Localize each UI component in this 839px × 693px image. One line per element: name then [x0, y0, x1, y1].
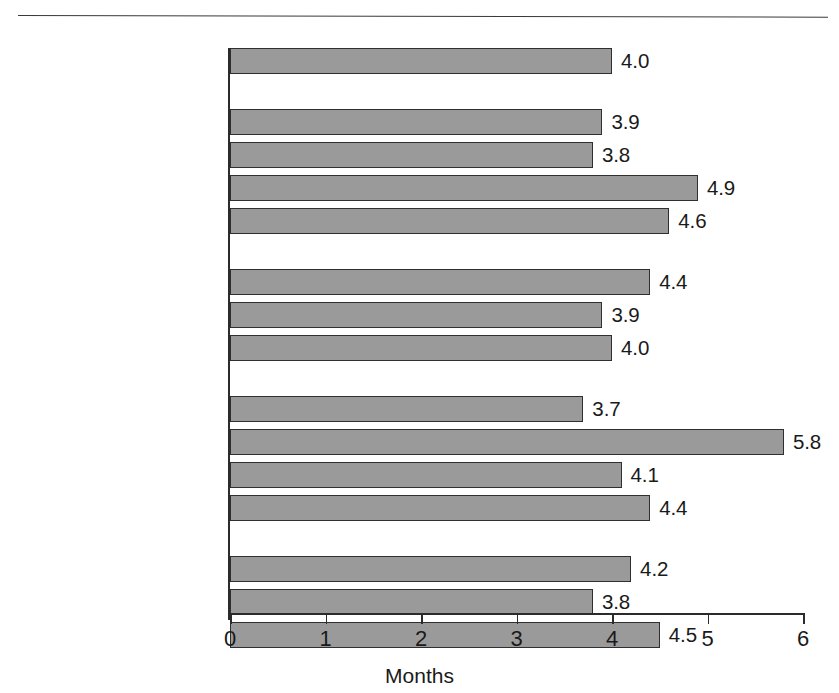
bar — [230, 335, 612, 361]
bar — [230, 462, 622, 488]
bar — [230, 269, 650, 295]
bar — [230, 109, 602, 135]
value-axis-line — [228, 613, 803, 615]
bar-value-label: 3.8 — [602, 589, 630, 615]
x-axis-tick-label: 6 — [797, 626, 809, 652]
bar-value-label: 4.4 — [659, 269, 687, 295]
bar-value-label: 3.9 — [611, 302, 639, 328]
bar-value-label: 4.9 — [707, 175, 735, 201]
bar-value-label: 4.4 — [659, 495, 687, 521]
bar-value-label: 3.7 — [592, 396, 620, 422]
x-axis-tick — [803, 613, 805, 624]
plot-area: All4.0White3.9White, not Hispanic3.8Blac… — [0, 40, 839, 620]
x-axis-tick — [230, 613, 232, 624]
bar — [230, 175, 698, 201]
x-axis-tick-label: 3 — [510, 626, 522, 652]
bar-value-label: 3.8 — [602, 142, 630, 168]
bar — [230, 208, 669, 234]
x-axis-tick-label: 4 — [606, 626, 618, 652]
x-axis-title: Months — [0, 664, 839, 688]
bar-chart: All4.0White3.9White, not Hispanic3.8Blac… — [0, 0, 839, 693]
bar — [230, 589, 593, 615]
bar-value-label: 5.8 — [793, 429, 821, 455]
bar — [230, 142, 593, 168]
x-axis-tick — [612, 613, 614, 624]
bar — [230, 495, 650, 521]
x-axis-tick — [517, 613, 519, 624]
x-axis-tick — [421, 613, 423, 624]
x-axis-tick — [708, 613, 710, 624]
bar — [230, 429, 784, 455]
bar — [230, 302, 602, 328]
top-divider-rule — [18, 15, 828, 18]
x-axis-tick-label: 5 — [701, 626, 713, 652]
x-axis-tick-label: 1 — [319, 626, 331, 652]
bar — [230, 48, 612, 74]
bar-value-label: 4.0 — [621, 48, 649, 74]
bar-value-label: 3.9 — [611, 109, 639, 135]
x-axis-tick-label: 2 — [415, 626, 427, 652]
bar-value-label: 4.6 — [678, 208, 706, 234]
bar — [230, 622, 660, 648]
x-axis-tick-label: 0 — [224, 626, 236, 652]
bar-value-label: 4.0 — [621, 335, 649, 361]
x-axis-tick — [326, 613, 328, 624]
bar-value-label: 4.1 — [631, 462, 659, 488]
bar-value-label: 4.5 — [669, 622, 697, 648]
bar-value-label: 4.2 — [640, 556, 668, 582]
bar — [230, 396, 583, 422]
bar — [230, 556, 631, 582]
